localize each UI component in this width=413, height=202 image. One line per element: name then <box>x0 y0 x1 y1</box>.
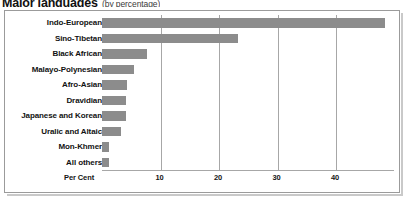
x-tick-label-40: 40 <box>331 173 339 182</box>
x-axis-line <box>102 170 394 171</box>
bar-track <box>102 158 109 168</box>
bar-category-label: Afro-Asian <box>0 77 102 93</box>
bar-track <box>102 111 126 121</box>
bar-row: Indo-European <box>5 15 401 31</box>
x-tick-label-10: 10 <box>156 173 164 182</box>
bar-category-label: Dravidian <box>0 93 102 109</box>
bar-track <box>102 80 127 90</box>
x-tick-label-30: 30 <box>273 173 281 182</box>
bar-category-label: Japanese and Korean <box>0 108 102 124</box>
bar-track <box>102 127 121 137</box>
bar <box>102 127 121 137</box>
bar-row: Dravidian <box>5 93 401 109</box>
bar-row: Afro-Asian <box>5 77 401 93</box>
bar-row: Japanese and Korean <box>5 108 401 124</box>
bar-row: Sino-Tibetan <box>5 31 401 47</box>
bar-category-label: Mon-Khmer <box>0 139 102 155</box>
frame-shadow-right <box>401 13 403 195</box>
x-tick-label-20: 20 <box>214 173 222 182</box>
bar-track <box>102 34 238 44</box>
x-axis-caption: Per Cent <box>64 173 94 182</box>
frame-shadow-bottom <box>7 194 403 196</box>
bar <box>102 96 126 106</box>
bar-category-label: Indo-European <box>0 15 102 31</box>
bar <box>102 111 126 121</box>
bar-track <box>102 142 109 152</box>
bar-track <box>102 49 147 59</box>
bar <box>102 65 134 75</box>
page-title: Major languages <box>2 0 98 7</box>
bar-row: Black African <box>5 46 401 62</box>
bar <box>102 34 238 44</box>
bar-row: All others <box>5 155 401 171</box>
chart-title-block: Major languages (by percentage) <box>2 0 160 7</box>
bar-row: Uralic and Altaic <box>5 124 401 140</box>
bar-category-label: Uralic and Altaic <box>0 124 102 140</box>
bar-category-label: Sino-Tibetan <box>0 31 102 47</box>
bar-track <box>102 96 126 106</box>
bar-row: Malayo-Polynesian <box>5 62 401 78</box>
bar <box>102 80 127 90</box>
bar <box>102 18 385 28</box>
bar-category-label: Black African <box>0 46 102 62</box>
bar-category-label: Malayo-Polynesian <box>0 62 102 78</box>
bar <box>102 142 109 152</box>
bar-category-label: All others <box>0 155 102 171</box>
bar-row: Mon-Khmer <box>5 139 401 155</box>
bar <box>102 158 109 168</box>
chart-frame: Indo-EuropeanSino-TibetanBlack AfricanMa… <box>4 10 400 193</box>
bar-track <box>102 65 134 75</box>
bar <box>102 49 147 59</box>
bar-track <box>102 18 385 28</box>
page-subtitle: (by percentage) <box>102 0 160 7</box>
